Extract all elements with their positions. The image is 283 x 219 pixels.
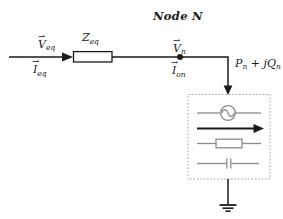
resistor-icon	[197, 139, 261, 148]
voltage-eq-label: → Veq	[38, 31, 55, 53]
voltage-n-text: Vn	[173, 42, 186, 57]
impedance-box	[74, 52, 113, 62]
voltage-n-label: → Vn	[173, 35, 186, 57]
impedance-label: Zeq	[81, 31, 99, 46]
voltage-eq-text: Veq	[38, 38, 55, 53]
load-box	[188, 95, 270, 180]
circuit-diagram: Node N → Veq → Ieq Zeq → Vn → Ion Pn + j…	[0, 0, 283, 219]
ground-icon	[220, 179, 237, 211]
flow-arrowhead-icon	[62, 53, 73, 62]
power-label: Pn + jQn	[234, 57, 281, 72]
node-title: Node N	[152, 9, 203, 23]
current-eq-label: → Ieq	[32, 56, 47, 78]
ac-source-icon	[197, 106, 261, 121]
current-on-label: → Ion	[171, 57, 186, 79]
current-on-text: Ion	[171, 64, 186, 79]
circuit-diagram-canvas: Node N → Veq → Ieq Zeq → Vn → Ion Pn + j…	[0, 0, 283, 219]
current-eq-text: Ieq	[32, 63, 47, 78]
capacitor-icon	[197, 159, 259, 169]
node-wire-segment	[112, 57, 228, 86]
down-arrowhead-icon	[224, 86, 233, 96]
current-arrow-icon	[197, 124, 264, 133]
